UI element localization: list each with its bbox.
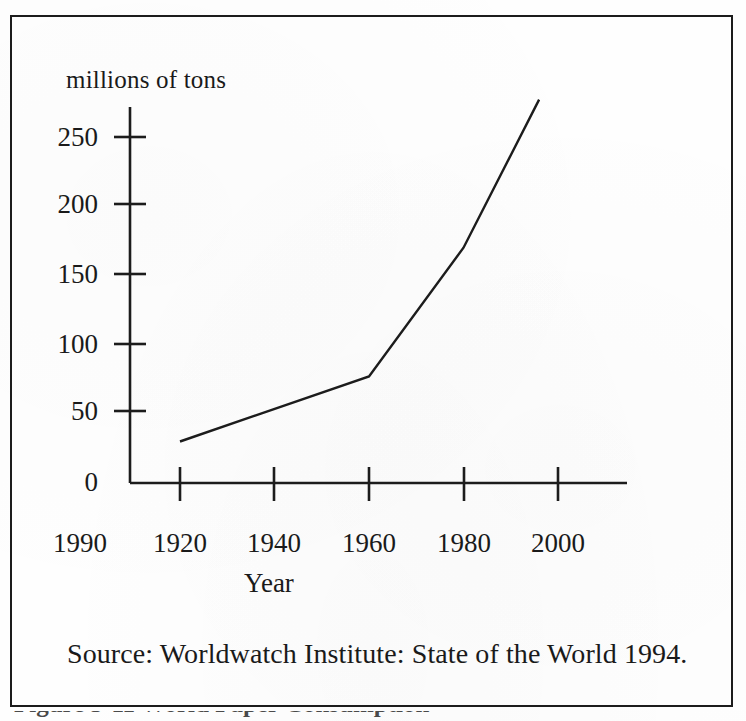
source-note: Source: Worldwatch Institute: State of t…: [67, 639, 687, 670]
x-tick-label-1900: 1990: [30, 530, 130, 557]
figure-border-box: millions of tons: [10, 15, 733, 707]
x-tick-label-2000: 2000: [508, 530, 608, 557]
figure-page: millions of tons: [0, 0, 746, 721]
x-tick-label-1960: 1960: [319, 530, 419, 557]
y-tick-label-50: 50: [30, 398, 98, 425]
y-tick-label-0: 0: [30, 469, 98, 496]
y-tick-label-250: 250: [30, 124, 98, 151]
y-tick-label-150: 150: [30, 261, 98, 288]
y-tick-label-100: 100: [30, 331, 98, 358]
data-line-world-paper-consumption: [180, 100, 539, 442]
x-tick-label-1920: 1920: [130, 530, 230, 557]
plot-area: [12, 17, 735, 709]
figure-caption-clipped: Figure 3-11 World Paper Consumption: [14, 711, 714, 721]
x-tick-label-1940: 1940: [224, 530, 324, 557]
figure-caption-text: Figure 3-11 World Paper Consumption: [14, 711, 429, 716]
y-tick-label-200: 200: [30, 191, 98, 218]
x-axis-title: Year: [219, 570, 319, 597]
x-tick-label-1980: 1980: [414, 530, 514, 557]
